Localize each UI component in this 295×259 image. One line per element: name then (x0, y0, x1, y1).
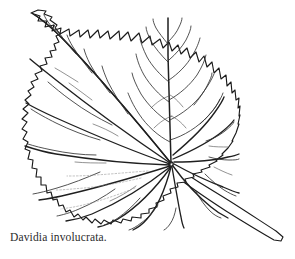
secondary-vein-lower-c (164, 208, 176, 230)
figure-caption: Davidia involucrata. (10, 230, 107, 244)
leaf-illustration (0, 0, 295, 259)
secondary-vein-midrib-right-6 (168, 18, 182, 42)
botanical-figure: Davidia involucrata. (0, 0, 295, 259)
tertiary-vein-8 (214, 167, 232, 175)
